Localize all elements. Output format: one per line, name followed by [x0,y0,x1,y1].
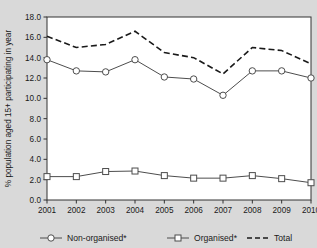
y-axis-tick-label: 0.0 [30,196,42,205]
line-chart: 0.02.04.06.08.010.012.014.016.018.020012… [0,0,317,248]
chart-figure: 0.02.04.06.08.010.012.014.016.018.020012… [0,0,317,248]
y-axis-tick-label: 16.0 [25,33,41,42]
legend-label: Non-organised* [67,233,127,243]
x-axis-tick-label: 2010 [302,206,317,215]
data-point-marker [279,176,285,182]
y-axis-tick-label: 14.0 [25,54,41,63]
data-point-marker [44,57,50,63]
plot-area [47,17,311,200]
x-axis-tick-label: 2001 [38,206,57,215]
data-point-marker [278,68,284,74]
legend-label: Total [274,233,292,243]
data-point-marker [249,173,255,179]
x-axis-tick-label: 2004 [126,206,145,215]
legend-label: Organised* [194,233,238,243]
x-axis-tick-label: 2005 [155,206,174,215]
data-point-marker [73,174,79,180]
data-point-marker [191,175,197,181]
x-axis-tick-label: 2008 [243,206,262,215]
x-axis-tick-label: 2009 [273,206,292,215]
data-point-marker [73,68,79,74]
data-point-marker [308,180,314,186]
data-point-marker [132,57,138,63]
y-axis-title: % population aged 15+ participating in y… [4,30,13,188]
data-point-marker [249,68,255,74]
y-axis-tick-label: 2.0 [30,176,42,185]
data-point-marker [190,76,196,82]
y-axis-tick-label: 18.0 [25,13,41,22]
data-point-marker [161,173,167,179]
y-axis-tick-label: 8.0 [30,115,42,124]
legend-marker-square [175,235,181,241]
data-point-marker [220,92,226,98]
data-point-marker [44,174,50,180]
x-axis-tick-label: 2007 [214,206,233,215]
data-point-marker [308,75,314,81]
y-axis-tick-label: 4.0 [30,155,42,164]
data-point-marker [102,69,108,75]
legend-marker-circle [48,235,54,241]
x-axis-tick-label: 2002 [67,206,86,215]
x-axis-tick-label: 2003 [97,206,116,215]
x-axis-tick-label: 2006 [185,206,204,215]
data-point-marker [103,169,109,175]
y-axis-tick-label: 6.0 [30,135,42,144]
data-point-marker [161,74,167,80]
y-axis-tick-label: 12.0 [25,74,41,83]
y-axis-tick-label: 10.0 [25,94,41,103]
data-point-marker [132,168,138,174]
data-point-marker [220,175,226,181]
